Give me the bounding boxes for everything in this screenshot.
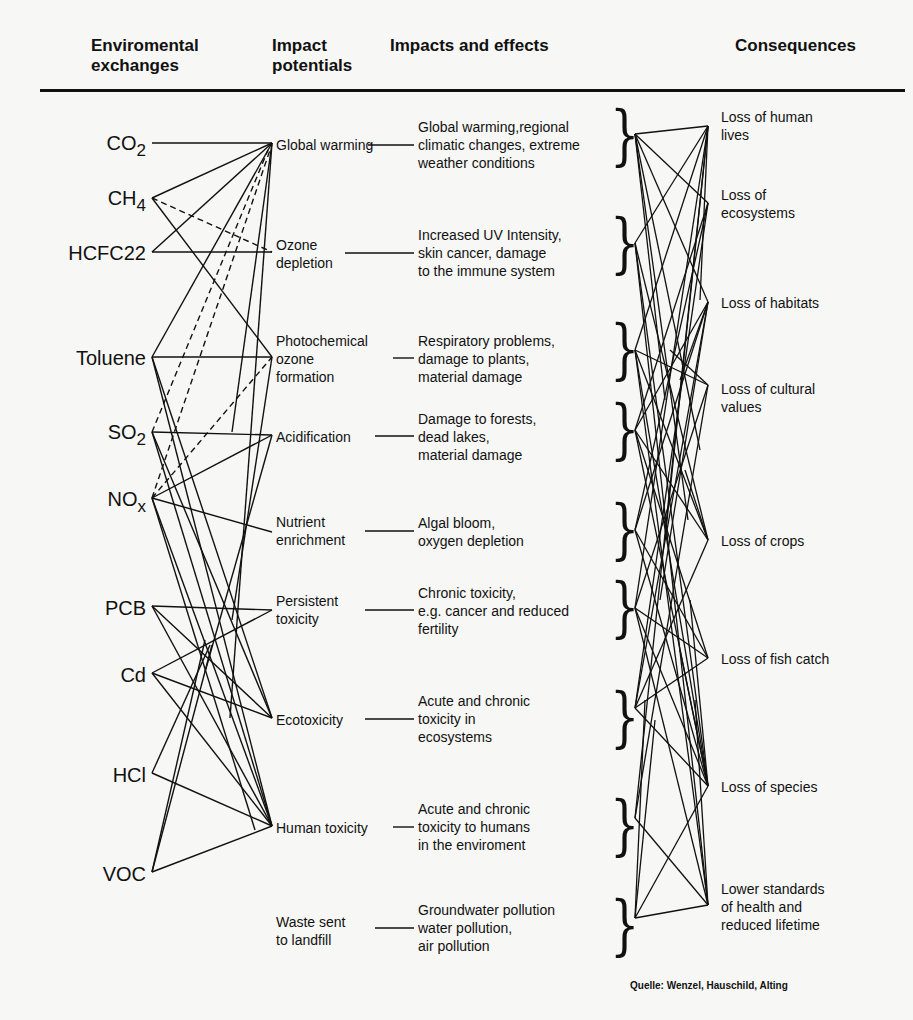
substance-hcfc22: HCFC22 xyxy=(36,242,146,264)
effect-global-warming: Global warming,regionalclimatic changes,… xyxy=(418,118,580,172)
substance-nox: NOx xyxy=(36,488,146,518)
effect-human-toxicity: Acute and chronictoxicity to humansin th… xyxy=(418,800,530,854)
substance-ch4: CH4 xyxy=(36,187,146,217)
effect-persistent-toxicity: Chronic toxicity,e.g. cancer and reduced… xyxy=(418,584,569,638)
effect-ecotoxicity: Acute and chronictoxicity inecosystems xyxy=(418,692,530,746)
impact-persistent-toxicity: Persistenttoxicity xyxy=(276,592,338,628)
impact-acidification: Acidification xyxy=(276,428,351,446)
consequence-lower-standards-of-health: Lower standardsof health andreduced life… xyxy=(721,880,825,934)
impact-human-toxicity: Human toxicity xyxy=(276,819,368,837)
substance-cd: Cd xyxy=(36,664,146,686)
consequence-loss-of-habitats: Loss of habitats xyxy=(721,294,819,312)
brace-icon: } xyxy=(610,496,639,562)
impact-global-warming: Global warming xyxy=(276,136,373,154)
brace-icon: } xyxy=(610,316,639,382)
brace-icon: } xyxy=(610,102,639,168)
impact-waste-sent-to-landfill: Waste sentto landfill xyxy=(276,913,346,949)
consequence-loss-of-cultural-values: Loss of culturalvalues xyxy=(721,380,815,416)
brace-icon: } xyxy=(610,396,639,462)
substance-hcl: HCl xyxy=(36,764,146,786)
effect-acidification: Damage to forests,dead lakes,material da… xyxy=(418,410,536,464)
substance-toluene: Toluene xyxy=(36,347,146,369)
consequence-loss-of-human-lives: Loss of humanlives xyxy=(721,108,813,144)
substance-voc: VOC xyxy=(36,863,146,885)
brace-icon: } xyxy=(610,792,639,858)
consequence-loss-of-ecosystems: Loss ofecosystems xyxy=(721,186,795,222)
substance-so2: SO2 xyxy=(36,421,146,451)
effect-ozone-depletion: Increased UV Intensity,skin cancer, dama… xyxy=(418,226,562,280)
brace-icon: } xyxy=(610,892,639,958)
effect-photochemical: Respiratory problems,damage to plants,ma… xyxy=(418,332,555,386)
impact-nutrient-enrichment: Nutrientenrichment xyxy=(276,513,345,549)
effect-waste-landfill: Groundwater pollutionwater pollution,air… xyxy=(418,901,555,955)
consequence-loss-of-species: Loss of species xyxy=(721,778,818,796)
substance-pcb: PCB xyxy=(36,597,146,619)
brace-icon: } xyxy=(610,684,639,750)
impact-ozone-depletion: Ozonedepletion xyxy=(276,236,333,272)
source-citation: Quelle: Wenzel, Hauschild, Alting xyxy=(630,980,788,991)
impact-photochemical-ozone-formation: Photochemicalozoneformation xyxy=(276,332,368,386)
impact-ecotoxicity: Ecotoxicity xyxy=(276,711,343,729)
substance-co2: CO2 xyxy=(36,132,146,162)
consequence-loss-of-crops: Loss of crops xyxy=(721,532,804,550)
consequence-loss-of-fish-catch: Loss of fish catch xyxy=(721,650,829,668)
effect-nutrient-enrichment: Algal bloom,oxygen depletion xyxy=(418,514,524,550)
brace-icon: } xyxy=(610,574,639,640)
brace-icon: } xyxy=(610,210,639,276)
